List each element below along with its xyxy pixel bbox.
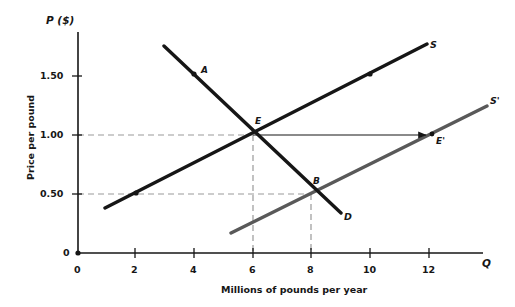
point-label-b: B: [313, 177, 320, 186]
y-tick-label-1.00: 1.00: [40, 130, 63, 140]
point-e-prime-dot: [430, 132, 435, 137]
equilibrium-shift-arrow: [253, 132, 434, 137]
x-tick-label-4: 4: [190, 265, 197, 275]
supply-demand-chart: P ($) Price per pound 1.50 1.00 0.50 0 0…: [0, 0, 515, 307]
curve-label-supply: S: [430, 40, 437, 50]
chart-canvas: [0, 0, 515, 307]
curve-label-supply-shifted: S': [490, 96, 500, 106]
y-axis-symbol: P ($): [46, 15, 74, 26]
x-tick-label-2: 2: [131, 265, 138, 275]
point-label-e-prime: E': [436, 137, 445, 146]
x-axis-symbol: Q: [482, 258, 491, 269]
x-tick-label-8: 8: [307, 265, 314, 275]
supply-point-10-150: [367, 71, 372, 76]
x-tick-label-10: 10: [363, 265, 376, 275]
curve-label-demand: D: [344, 212, 352, 222]
point-label-a: A: [201, 66, 208, 75]
demand-point-a: [191, 71, 196, 76]
origin-dot: [75, 250, 80, 255]
supply-point-2-050: [133, 190, 138, 195]
y-tick-label-1.50: 1.50: [40, 71, 63, 81]
y-axis-title: Price per pound: [26, 95, 36, 180]
y-tick-label-0.50: 0.50: [40, 189, 63, 199]
supply-line: [105, 44, 427, 208]
x-tick-label-6: 6: [249, 265, 256, 275]
x-tick-label-12: 12: [422, 265, 435, 275]
axes: [72, 32, 483, 258]
x-tick-label-0: 0: [74, 265, 81, 275]
y-tick-label-0: 0: [63, 248, 70, 258]
point-label-e: E: [255, 117, 261, 126]
curve-supply: [105, 44, 427, 208]
x-axis-title: Millions of pounds per year: [221, 285, 367, 295]
